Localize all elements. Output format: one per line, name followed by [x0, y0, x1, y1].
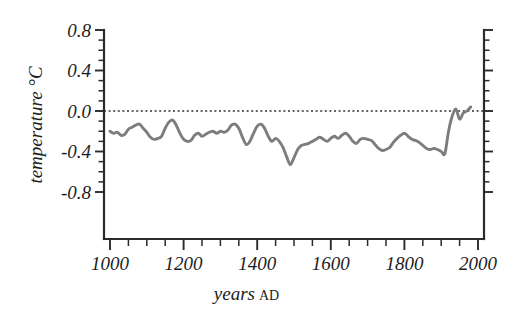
x-tick-label: 2000: [459, 253, 498, 274]
y-tick-label: 0.0: [67, 101, 91, 122]
y-tick-label: -0.4: [61, 141, 92, 162]
x-tick-label: 1600: [312, 253, 351, 274]
x-axis-title-era: AD: [259, 288, 279, 303]
y-axis-title: temperature °C: [25, 66, 46, 184]
y-tick-label: -0.8: [61, 182, 92, 203]
y-tick-label: 0.4: [67, 60, 91, 81]
x-axis-title: years: [212, 283, 255, 304]
temperature-line-chart: 0.80.40.0-0.4-0.810001200140016001800200…: [0, 0, 525, 318]
x-tick-label: 1800: [385, 253, 424, 274]
chart-page: 0.80.40.0-0.4-0.810001200140016001800200…: [0, 0, 525, 318]
x-tick-label: 1000: [91, 253, 130, 274]
y-tick-label: 0.8: [67, 20, 91, 41]
x-tick-label: 1200: [165, 253, 204, 274]
x-tick-label: 1400: [238, 253, 277, 274]
